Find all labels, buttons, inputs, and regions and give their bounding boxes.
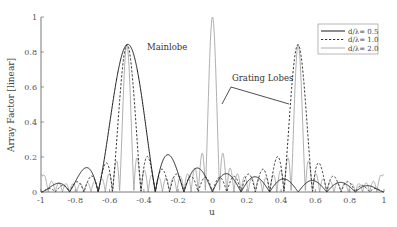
y-tick-label: 1 [32,13,37,22]
legend: d/λ= 0.5 d/λ= 1.0 d/λ= 2.0 [318,24,379,54]
y-tick-label: 0.6 [24,83,37,92]
x-tick-label: -0.6 [102,196,117,205]
grating-lobes-pointer [222,87,289,104]
legend-item-0: d/λ= 0.5 [348,28,379,36]
x-axis-label: u [209,207,215,217]
y-tick-label: 0.2 [24,153,37,162]
mainlobe-annotation: Mainlobe [147,42,187,52]
x-tick-label: 0.4 [275,196,288,205]
x-tick-label: -0.8 [68,196,83,205]
x-tick-label: 0.2 [240,196,253,205]
y-tick-label: 0.4 [24,118,37,127]
y-axis-label: Array Factor [linear] [6,58,16,153]
legend-item-1: d/λ= 1.0 [348,36,379,44]
x-tick-label: 0 [210,196,215,205]
grating-lobes-annotation: Grating Lobes [232,73,293,83]
x-tick-label: -0.4 [136,196,151,205]
y-tick-label: 0.8 [24,48,37,57]
x-tick-label: -0.2 [170,196,185,205]
series-line [41,45,384,192]
x-tick-label: 1 [381,196,386,205]
array-factor-chart: -1-0.8-0.6-0.4-0.200.20.40.60.8100.20.40… [0,0,397,227]
x-tick-label: -1 [37,196,45,205]
y-tick-label: 0 [32,188,37,197]
legend-item-2: d/λ= 2.0 [348,45,379,53]
x-tick-label: 0.6 [309,196,322,205]
x-tick-label: 0.8 [343,196,356,205]
series-line [41,44,384,192]
